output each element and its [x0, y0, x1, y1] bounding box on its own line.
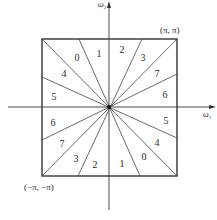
sector-label: 7 [155, 68, 160, 79]
omega2-axis-label: ω2 [98, 0, 107, 10]
diagram-canvas: 5 4 0 1 2 3 7 6 6 7 3 2 1 0 4 5 (π, π) (… [0, 0, 217, 220]
sector-label: 2 [120, 44, 125, 55]
sector-label: 3 [74, 153, 79, 164]
corner-label-top-right: (π, π) [160, 25, 180, 35]
vertical-axis-arrow-icon [107, 1, 111, 8]
sector-label: 6 [163, 89, 168, 100]
sector-labels-lower: 6 7 3 2 1 0 4 5 [51, 115, 169, 170]
sector-label: 6 [51, 117, 56, 128]
sector-label: 0 [75, 52, 80, 63]
sector-label: 4 [155, 137, 160, 148]
sector-label: 5 [52, 91, 57, 102]
sector-label: 1 [120, 158, 125, 169]
sector-label: 0 [142, 151, 147, 162]
origin-point [107, 105, 111, 109]
sector-labels-upper: 5 4 0 1 2 3 7 6 [52, 44, 168, 102]
sector-label: 7 [60, 138, 65, 149]
sector-label: 1 [97, 48, 102, 59]
corner-label-bottom-left: (−π, −π) [24, 182, 54, 192]
sector-label: 2 [93, 159, 98, 170]
omega1-axis-label: ω1 [203, 110, 211, 120]
frequency-partition-diagram: 5 4 0 1 2 3 7 6 6 7 3 2 1 0 4 5 (π, π) (… [0, 0, 217, 220]
sector-label: 3 [141, 52, 146, 63]
sector-label: 5 [164, 115, 169, 126]
horizontal-axis-arrow-icon [209, 105, 216, 109]
sector-label: 4 [62, 68, 67, 79]
